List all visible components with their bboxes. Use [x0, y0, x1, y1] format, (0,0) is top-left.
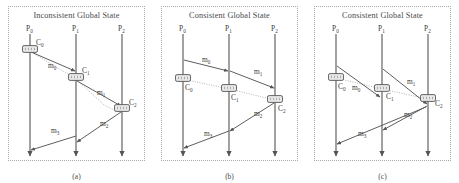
panel-diagram-a: P0P1P2m0m1m2m3C0C1C2: [0, 0, 153, 183]
message-m1-label: m1: [254, 67, 263, 77]
process-label-p1: P1: [378, 24, 385, 34]
message-m3-label: m3: [358, 129, 367, 139]
message-m1-label: m1: [407, 77, 416, 87]
process-label-p1: P1: [225, 24, 232, 34]
process-label-p0: P0: [26, 24, 33, 34]
checkpoint-c2-label: C2: [435, 99, 443, 109]
checkpoint-c2-label: C2: [278, 104, 286, 114]
process-label-p2: P2: [424, 24, 431, 34]
process-label-p2: P2: [271, 24, 278, 34]
checkpoint-c0: [329, 74, 344, 81]
checkpoint-c1: [375, 85, 390, 92]
process-label-p0: P0: [179, 24, 186, 34]
message-m3-arrow: [31, 136, 76, 150]
checkpoint-c1-label: C1: [82, 66, 90, 76]
process-label-p0: P0: [332, 24, 339, 34]
checkpoint-c2: [268, 96, 283, 103]
checkpoint-c2: [421, 95, 436, 102]
message-m0-label: m0: [202, 55, 211, 65]
checkpoint-c0-label: C0: [185, 83, 193, 93]
message-m1-label: m1: [97, 88, 106, 98]
process-label-p2: P2: [118, 24, 125, 34]
message-m0-label: m0: [352, 83, 361, 93]
panel-b: Consistent Global State(b)P0P1P2m0m1m2m3…: [153, 0, 306, 183]
message-m2-label: m2: [404, 110, 413, 120]
checkpoint-c0-label: C0: [338, 82, 346, 92]
message-m2-arrow: [230, 103, 274, 131]
message-m2-label: m2: [100, 119, 109, 129]
checkpoint-c2: [115, 105, 130, 112]
panel-c: Consistent Global State(c)P0P1P2m0m1m2m3…: [306, 0, 459, 183]
checkpoint-c2-label: C2: [129, 98, 137, 108]
panel-a: Inconsistent Global State(a)P0P1P2m0m1m2…: [0, 0, 153, 183]
checkpoint-c0-label: C0: [36, 38, 44, 48]
checkpoint-c1-label: C1: [231, 93, 239, 103]
process-label-p1: P1: [72, 24, 79, 34]
checkpoint-c1-label: C1: [386, 92, 394, 102]
panel-diagram-b: P0P1P2m0m1m2m3C0C1C2: [153, 0, 306, 183]
message-m3-label: m3: [51, 126, 60, 136]
panel-diagram-c: P0P1P2m0m1m2m3C0C1C2: [306, 0, 459, 183]
checkpoint-consistency-figure: Inconsistent Global State(a)P0P1P2m0m1m2…: [0, 0, 459, 183]
message-m3-label: m3: [204, 129, 213, 139]
checkpoint-c1: [222, 85, 237, 92]
message-m2-arrow: [77, 112, 121, 142]
checkpoint-c0: [176, 75, 191, 82]
